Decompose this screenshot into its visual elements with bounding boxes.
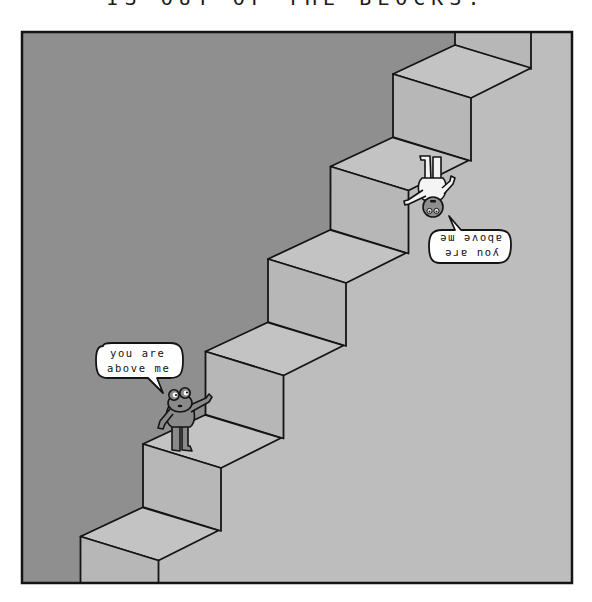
upside-down-speech-line-2: above me <box>439 233 502 245</box>
upside-down-speech-line-1: you are <box>444 248 499 260</box>
frog-mouth <box>178 405 183 407</box>
frog-left-pupil <box>175 394 177 396</box>
frog-right-pupil <box>186 391 188 393</box>
frog-speech-line-1: you are <box>110 347 165 359</box>
frog-speech-line-2: above me <box>107 362 170 374</box>
pale-left-pupil <box>429 211 431 213</box>
pale-mouth <box>430 200 436 203</box>
comic-panel: you are above me you are above me <box>0 0 592 602</box>
pale-right-pupil <box>436 211 438 213</box>
panel-artwork <box>22 32 572 583</box>
